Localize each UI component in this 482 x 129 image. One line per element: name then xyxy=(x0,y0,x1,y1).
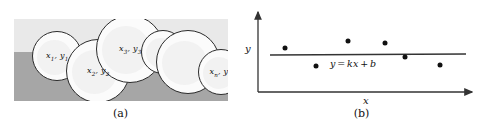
data-point-1 xyxy=(283,46,288,51)
data-point-3 xyxy=(346,39,351,44)
data-point-2 xyxy=(314,64,319,69)
axes-layer xyxy=(258,12,472,92)
bubble-label-3: x3, y3 xyxy=(119,44,141,55)
fit-line-equation: y = kx + b xyxy=(330,58,376,69)
panel-a: x1, y1x2, y2x3, y3xn, yn (a) xyxy=(0,0,241,129)
fit-line xyxy=(270,54,466,55)
bubble-label-6: xn, yn xyxy=(210,67,229,78)
bubble-label-1: x1, y1 xyxy=(46,51,68,62)
data-point-6 xyxy=(438,63,443,68)
x-axis-label: x xyxy=(363,95,369,106)
panel-b-caption: (b) xyxy=(241,107,482,120)
y-axis-label: y xyxy=(245,43,251,54)
data-point-5 xyxy=(403,55,408,60)
figure-root: x1, y1x2, y2x3, y3xn, yn (a) y x y = kx … xyxy=(0,0,482,129)
panel-b: y x y = kx + b (b) xyxy=(241,0,482,129)
panel-a-caption: (a) xyxy=(0,107,241,120)
bubble-label-2: x2, y2 xyxy=(87,66,109,77)
data-point-4 xyxy=(383,41,388,46)
bubble-scene: x1, y1x2, y2x3, y3xn, yn xyxy=(14,19,228,101)
regression-line xyxy=(270,54,466,55)
